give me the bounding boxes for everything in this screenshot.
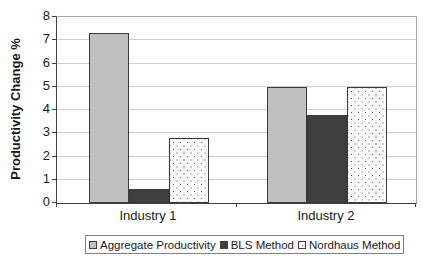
- bar-industry-2-bls-method: [307, 115, 347, 203]
- bar-industry-2-nordhaus-method: [347, 87, 387, 203]
- plot-area: [56, 16, 417, 204]
- legend-item-aggregate-productivity: Aggregate Productivity: [89, 239, 216, 251]
- legend: Aggregate ProductivityBLS MethodNordhaus…: [85, 235, 404, 254]
- x-tick-mark-0: [56, 203, 57, 207]
- x-tick-mark-1: [236, 203, 237, 207]
- y-tick-label-8: 8: [30, 9, 50, 23]
- y-tick-mark-3: [52, 132, 56, 133]
- legend-swatch-bls-method: [220, 241, 228, 249]
- legend-swatch-nordhaus-method: [298, 241, 306, 249]
- bar-industry-1-aggregate-productivity: [89, 33, 129, 203]
- legend-item-nordhaus-method: Nordhaus Method: [298, 239, 400, 251]
- y-tick-mark-1: [52, 179, 56, 180]
- y-tick-mark-4: [52, 109, 56, 110]
- legend-label: Nordhaus Method: [309, 239, 400, 251]
- y-tick-mark-7: [52, 39, 56, 40]
- y-tick-label-1: 1: [30, 172, 50, 186]
- y-tick-label-2: 2: [30, 149, 50, 163]
- bar-chart: Productivity Change % 012345678 Industry…: [0, 0, 434, 268]
- bar-industry-1-nordhaus-method: [169, 138, 209, 203]
- legend-label: Aggregate Productivity: [100, 239, 216, 251]
- y-tick-label-6: 6: [30, 56, 50, 70]
- x-axis-label-industry-1: Industry 1: [119, 208, 176, 223]
- y-tick-mark-5: [52, 86, 56, 87]
- y-tick-mark-8: [52, 16, 56, 17]
- y-axis-title: Productivity Change %: [8, 38, 23, 180]
- legend-label: BLS Method: [231, 239, 294, 251]
- y-tick-label-3: 3: [30, 125, 50, 139]
- y-tick-mark-6: [52, 63, 56, 64]
- bar-industry-2-aggregate-productivity: [267, 87, 307, 203]
- x-axis-label-industry-2: Industry 2: [297, 208, 354, 223]
- y-tick-label-4: 4: [30, 102, 50, 116]
- y-tick-mark-2: [52, 156, 56, 157]
- y-tick-label-7: 7: [30, 32, 50, 46]
- x-tick-mark-2: [415, 203, 416, 207]
- legend-item-bls-method: BLS Method: [220, 239, 294, 251]
- y-tick-label-0: 0: [30, 195, 50, 209]
- legend-swatch-aggregate-productivity: [89, 241, 97, 249]
- bar-industry-1-bls-method: [129, 189, 169, 203]
- y-tick-label-5: 5: [30, 79, 50, 93]
